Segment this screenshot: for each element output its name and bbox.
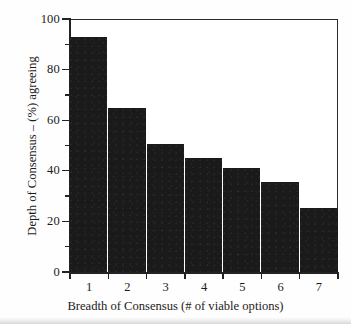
y-tick-40 (62, 170, 69, 171)
y-tick-0 (62, 271, 69, 272)
x-tick-7 (337, 273, 338, 279)
x-tick-label-7: 7 (304, 281, 334, 294)
x-tick-label-6: 6 (266, 281, 296, 294)
x-tick-label-5: 5 (227, 281, 257, 294)
y-minor-tick-70 (65, 94, 69, 95)
y-minor-tick-90 (65, 44, 69, 45)
x-tick-2 (146, 273, 147, 279)
y-tick-20 (62, 221, 69, 222)
x-tick-0 (69, 273, 70, 279)
x-tick-6 (299, 273, 300, 279)
scan-edge-band (0, 317, 351, 324)
y-axis-title: Depth of Consensus – (%) agreeing (25, 21, 39, 271)
x-tick-3 (184, 273, 185, 279)
bar-series (70, 19, 338, 272)
x-axis-title: Breadth of Consensus (# of viable option… (0, 299, 351, 313)
y-minor-tick-10 (65, 246, 69, 247)
bar-7 (300, 208, 338, 273)
bar-1 (70, 37, 108, 272)
bar-chart-figure: 020406080100 1234567 Depth of Consensus … (0, 0, 351, 324)
x-tick-label-3: 3 (151, 281, 181, 294)
y-tick-80 (62, 69, 69, 70)
x-tick-label-2: 2 (112, 281, 142, 294)
y-tick-60 (62, 120, 69, 121)
bar-3 (147, 144, 185, 272)
bar-2 (108, 108, 146, 272)
x-tick-label-1: 1 (74, 281, 104, 294)
y-minor-tick-30 (65, 195, 69, 196)
bar-5 (223, 168, 261, 272)
y-minor-tick-50 (65, 145, 69, 146)
x-tick-5 (261, 273, 262, 279)
bar-6 (261, 182, 299, 272)
x-tick-4 (222, 273, 223, 279)
x-tick-1 (108, 273, 109, 279)
x-tick-label-4: 4 (189, 281, 219, 294)
bar-4 (185, 158, 223, 272)
y-tick-100 (62, 18, 69, 19)
